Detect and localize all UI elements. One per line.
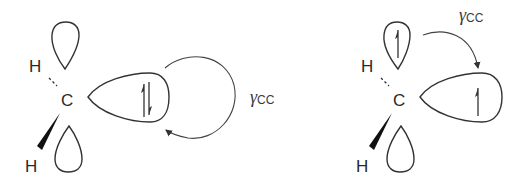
electron-pair-icon	[141, 82, 152, 117]
wedge-bond	[37, 113, 60, 150]
dashed-bond	[381, 78, 389, 86]
sp-lobe	[420, 73, 502, 122]
hydrogen-label-upper: H	[361, 57, 373, 76]
hydrogen-label-lower: H	[25, 157, 37, 176]
carbon-label: C	[393, 91, 405, 110]
curved-arrow-icon	[423, 32, 478, 68]
dashed-bond	[49, 78, 57, 86]
gamma-cc-label: γCC	[459, 5, 484, 25]
gamma-cc-label: γCC	[250, 87, 275, 107]
left-panel: H C γCC H	[25, 22, 275, 176]
bottom-lobe	[387, 126, 414, 172]
bottom-lobe	[55, 126, 82, 172]
electron-up-icon	[475, 88, 478, 116]
right-panel: γCC H C H	[356, 5, 502, 176]
hydrogen-label-upper: H	[29, 57, 41, 76]
hydrogen-label-lower: H	[356, 157, 368, 176]
curved-arrow-icon	[165, 57, 235, 139]
top-lobe	[52, 22, 79, 69]
top-lobe	[384, 22, 410, 69]
carbon-label: C	[61, 91, 73, 110]
wedge-bond	[369, 113, 392, 150]
sp-lobe	[88, 73, 169, 122]
electron-up-icon	[395, 30, 398, 58]
orbital-diagram: H C γCC H γCC	[0, 0, 528, 182]
